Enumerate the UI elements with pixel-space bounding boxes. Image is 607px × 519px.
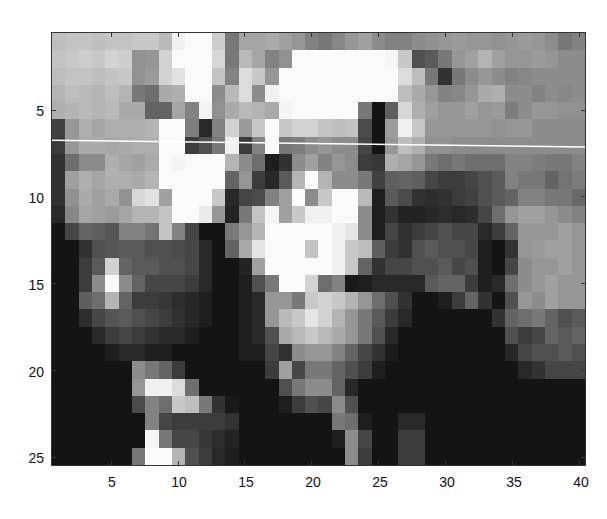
heatmap-cell	[372, 379, 385, 396]
heatmap-cell	[505, 119, 518, 136]
heatmap-cell	[159, 344, 172, 361]
heatmap-cell	[279, 85, 292, 102]
heatmap-cell	[398, 258, 411, 275]
heatmap-cell	[532, 430, 545, 447]
heatmap-cell	[318, 102, 331, 119]
heatmap-cell	[452, 119, 465, 136]
heatmap-cell	[518, 430, 531, 447]
heatmap-cell	[252, 361, 265, 378]
heatmap-cell	[398, 448, 411, 465]
x-tick-mark	[111, 461, 112, 466]
heatmap-cell	[279, 223, 292, 240]
heatmap-cell	[92, 119, 105, 136]
heatmap-cell	[225, 189, 238, 206]
heatmap-cell	[492, 102, 505, 119]
heatmap-cell	[385, 413, 398, 430]
heatmap-cell	[425, 344, 438, 361]
heatmap-cell	[385, 361, 398, 378]
heatmap-cell	[332, 102, 345, 119]
heatmap-cell	[545, 448, 558, 465]
heatmap-cell	[65, 119, 78, 136]
heatmap-cell	[52, 292, 65, 309]
heatmap-cell	[199, 448, 212, 465]
heatmap-cell	[292, 361, 305, 378]
heatmap-cell	[92, 240, 105, 257]
heatmap-cell	[252, 396, 265, 413]
heatmap-cell	[545, 50, 558, 67]
heatmap-cell	[412, 171, 425, 188]
heatmap-cell	[478, 189, 491, 206]
heatmap-cell	[225, 68, 238, 85]
heatmap-cell	[385, 379, 398, 396]
heatmap-cell	[492, 240, 505, 257]
heatmap-cell	[252, 344, 265, 361]
heatmap-cell	[119, 102, 132, 119]
x-tick-mark	[378, 461, 379, 466]
heatmap-cell	[292, 396, 305, 413]
heatmap-cell	[172, 327, 185, 344]
heatmap-cell	[358, 396, 371, 413]
heatmap-cell	[132, 430, 145, 447]
heatmap-cell	[225, 413, 238, 430]
heatmap-cell	[199, 33, 212, 50]
heatmap-cell	[292, 413, 305, 430]
heatmap-cell	[518, 309, 531, 326]
heatmap-cell	[212, 448, 225, 465]
heatmap-cell	[412, 119, 425, 136]
heatmap-cell	[119, 50, 132, 67]
heatmap-cell	[518, 292, 531, 309]
heatmap-cell	[438, 292, 451, 309]
heatmap-cell	[532, 361, 545, 378]
heatmap-cell	[92, 413, 105, 430]
heatmap-cell	[132, 50, 145, 67]
heatmap-cell	[438, 327, 451, 344]
y-tick-label: 15	[14, 277, 44, 293]
heatmap-cell	[465, 189, 478, 206]
heatmap-cell	[385, 448, 398, 465]
heatmap-cell	[412, 379, 425, 396]
heatmap-cell	[265, 68, 278, 85]
heatmap-cell	[358, 309, 371, 326]
heatmap-cell	[425, 430, 438, 447]
heatmap-cell	[225, 344, 238, 361]
heatmap-cell	[225, 396, 238, 413]
x-tick-mark	[311, 461, 312, 466]
heatmap-cell	[159, 85, 172, 102]
heatmap-cell	[558, 430, 571, 447]
heatmap-cell	[372, 344, 385, 361]
heatmap-cell	[412, 33, 425, 50]
heatmap-cell	[332, 275, 345, 292]
heatmap-cell	[172, 119, 185, 136]
heatmap-cell	[425, 189, 438, 206]
heatmap-cell	[92, 33, 105, 50]
heatmap-cell	[145, 50, 158, 67]
heatmap-cell	[305, 68, 318, 85]
heatmap-cell	[292, 275, 305, 292]
heatmap-cell	[79, 50, 92, 67]
heatmap-cell	[465, 379, 478, 396]
heatmap-cell	[318, 396, 331, 413]
heatmap-plot-area	[51, 32, 586, 466]
heatmap-cell	[358, 361, 371, 378]
heatmap-cell	[558, 379, 571, 396]
heatmap-cell	[545, 361, 558, 378]
heatmap-cell	[572, 396, 585, 413]
heatmap-cell	[265, 309, 278, 326]
heatmap-cell	[79, 223, 92, 240]
heatmap-cell	[332, 137, 345, 154]
heatmap-cell	[358, 448, 371, 465]
heatmap-cell	[412, 258, 425, 275]
heatmap-cell	[532, 396, 545, 413]
heatmap-cell	[478, 85, 491, 102]
heatmap-cell	[345, 154, 358, 171]
y-tick-mark	[51, 196, 56, 197]
heatmap-cell	[132, 448, 145, 465]
heatmap-cell	[398, 430, 411, 447]
heatmap-cell	[65, 102, 78, 119]
heatmap-cell	[465, 413, 478, 430]
heatmap-cell	[332, 327, 345, 344]
heatmap-cell	[279, 292, 292, 309]
heatmap-cell	[52, 33, 65, 50]
heatmap-cell	[305, 206, 318, 223]
heatmap-cell	[145, 396, 158, 413]
